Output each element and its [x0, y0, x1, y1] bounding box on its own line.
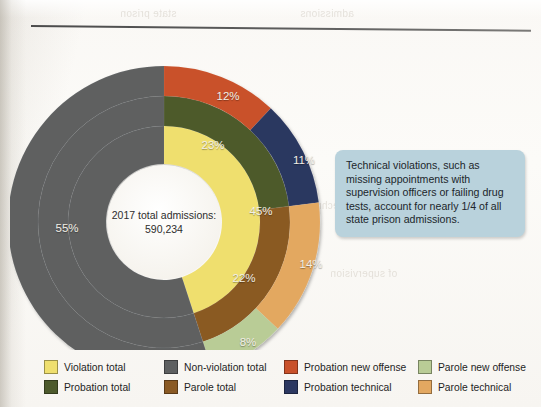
legend-label-violation-total: Violation total: [64, 362, 126, 373]
legend-item-parole-technical[interactable]: Parole technical: [418, 380, 538, 394]
legend-item-parole-total[interactable]: Parole total: [164, 380, 284, 394]
legend-swatch-parole-technical: [418, 380, 432, 394]
legend-label-parole-new-offense: Parole new offense: [438, 362, 526, 373]
legend-swatch-parole-new-offense: [418, 360, 432, 374]
legend-item-probation-new-offense[interactable]: Probation new offense: [284, 360, 418, 374]
legend-label-probation-technical: Probation technical: [304, 382, 392, 393]
chart-legend: Violation totalNon-violation totalProbat…: [44, 357, 524, 397]
legend-label-parole-technical: Parole technical: [438, 382, 511, 393]
legend-item-violation-total[interactable]: Violation total: [44, 360, 164, 374]
center-label-line2: 590,234: [112, 222, 216, 236]
legend-item-probation-total[interactable]: Probation total: [44, 380, 164, 394]
legend-item-parole-new-offense[interactable]: Parole new offense: [418, 360, 538, 374]
legend-label-probation-total: Probation total: [64, 382, 130, 393]
legend-swatch-probation-new-offense: [284, 360, 298, 374]
legend-swatch-probation-total: [44, 380, 58, 394]
legend-item-non-violation-total[interactable]: Non-violation total: [164, 360, 284, 374]
legend-label-non-violation-total: Non-violation total: [184, 362, 266, 373]
legend-swatch-violation-total: [44, 360, 58, 374]
center-label-line1: 2017 total admissions:: [112, 208, 216, 222]
callout-annotation: Technical violations, such as missing ap…: [335, 150, 525, 237]
donut-center-label: 2017 total admissions: 590,234: [112, 208, 216, 236]
legend-label-probation-new-offense: Probation new offense: [304, 362, 406, 373]
legend-swatch-probation-technical: [284, 380, 298, 394]
callout-text: Technical violations, such as missing ap…: [346, 159, 504, 225]
donut-chart: 12%11%14%8%23%22%45%55% 2017 total admis…: [10, 30, 340, 350]
legend-swatch-non-violation-total: [164, 360, 178, 374]
legend-item-probation-technical[interactable]: Probation technical: [284, 380, 418, 394]
legend-label-parole-total: Parole total: [184, 382, 236, 393]
donut-chart-svg: [10, 30, 340, 350]
legend-swatch-parole-total: [164, 380, 178, 394]
